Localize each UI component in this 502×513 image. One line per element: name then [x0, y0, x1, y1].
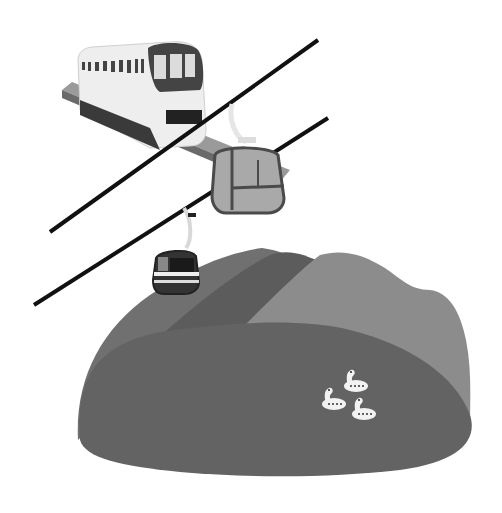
gondola-small	[153, 208, 199, 294]
illustration-scene	[0, 0, 502, 513]
gondola-large	[212, 104, 284, 213]
